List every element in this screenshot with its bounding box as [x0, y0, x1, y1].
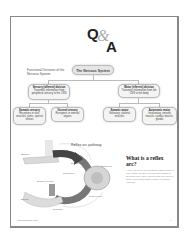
node-autonomic-motor: Autonomic motor Involuntary; smooth musc…: [142, 107, 177, 125]
reflex-arc-sidebar: What is a reflex arc? A reflex arc is th…: [126, 155, 174, 184]
footer-source: Medical Exam Prep: [17, 219, 38, 222]
label-stimulus: Stimulus: [21, 153, 29, 155]
label-effector: Effector: [21, 198, 29, 200]
node-visceral-sensory: Visceral sensory Receptors in internal o…: [51, 107, 84, 122]
sidebar-body: A reflex arc is the neural pathway that …: [126, 169, 174, 184]
node-motor-division: Motor (efferent) division Transmits info…: [118, 84, 160, 98]
label-spinal-cord: Spinal cord: [101, 165, 112, 167]
connector: [29, 103, 67, 104]
page-number: 1: [170, 219, 171, 222]
a-letter: A: [106, 38, 117, 55]
reflex-arc-illustration: Reflex arc pathway Stimulus Sensory rece…: [19, 140, 117, 216]
node-sensory-division: Sensory (afferent) division Transmits in…: [28, 84, 70, 100]
label-receptor: Sensory receptor: [37, 180, 54, 182]
label-interneuron: Interneuron: [63, 172, 74, 174]
label-motor-neuron: Motor neuron: [89, 195, 102, 197]
node-somatic-sensory: Somatic sensory Receptors in skin, muscl…: [13, 107, 46, 125]
sidebar-heading: What is a reflex arc?: [126, 155, 174, 167]
connector: [48, 80, 139, 81]
node-somatic-motor: Somatic motor Voluntary; skeletal muscle…: [103, 107, 136, 122]
reflex-arc-diagram: [19, 140, 117, 216]
label-response: Response: [53, 208, 63, 210]
label-sensory-neuron: Sensory neuron: [71, 162, 86, 164]
connector: [119, 103, 160, 104]
document-page: Q & A Functional Divisions of the Nervou…: [10, 16, 179, 228]
node-nervous-system: The Nervous System: [72, 65, 114, 75]
illustration-title: Reflex arc pathway: [71, 143, 102, 147]
flowchart-label: Functional Divisions of the Nervous Syst…: [27, 68, 65, 76]
qa-logo: Q & A: [87, 25, 127, 57]
